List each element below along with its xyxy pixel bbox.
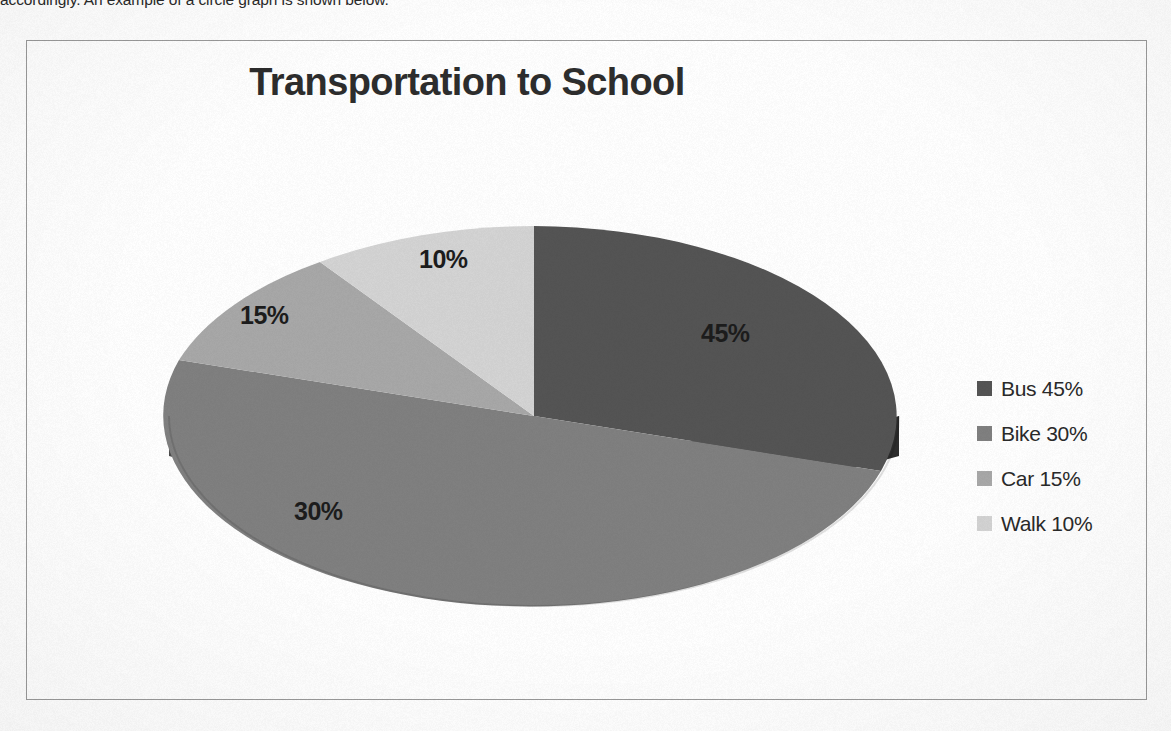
chart-legend: Bus 45% Bike 30% Car 15% Walk 10%	[977, 366, 1137, 546]
legend-item-walk[interactable]: Walk 10%	[977, 501, 1137, 546]
legend-label-walk: Walk 10%	[1001, 512, 1092, 536]
pie-label-car: 15%	[240, 301, 289, 330]
pie-label-bike: 30%	[294, 497, 343, 526]
pie-chart-svg	[117, 146, 917, 646]
legend-label-bike: Bike 30%	[1001, 422, 1087, 446]
pie-label-walk: 10%	[419, 245, 468, 274]
chart-frame: Transportation to School	[26, 40, 1147, 700]
chart-title: Transportation to School	[27, 61, 907, 104]
pie-chart: 45% 30% 15% 10%	[117, 146, 917, 646]
legend-swatch-icon	[977, 426, 992, 441]
legend-swatch-icon	[977, 381, 992, 396]
legend-swatch-icon	[977, 516, 992, 531]
legend-label-bus: Bus 45%	[1001, 377, 1083, 401]
intro-paragraph: accordingly. An example of a circle grap…	[0, 0, 520, 13]
pie-label-bus: 45%	[701, 319, 750, 348]
legend-label-car: Car 15%	[1001, 467, 1081, 491]
legend-item-car[interactable]: Car 15%	[977, 456, 1137, 501]
legend-item-bike[interactable]: Bike 30%	[977, 411, 1137, 456]
legend-swatch-icon	[977, 471, 992, 486]
legend-item-bus[interactable]: Bus 45%	[977, 366, 1137, 411]
